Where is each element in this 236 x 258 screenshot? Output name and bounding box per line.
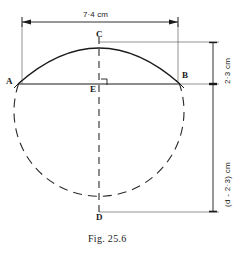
point-label-c: C (96, 30, 103, 39)
geometry-diagram (0, 0, 236, 258)
dim-label-remaining-diameter: (d - 2·3) cm (224, 162, 232, 207)
point-label-d: D (96, 213, 103, 222)
figure-caption: Fig. 25.6 (88, 233, 127, 244)
dim-arrow-right (169, 20, 178, 25)
figure-container: A B C E D 7·4 cm 2·3 cm (d - 2·3) cm Fig… (0, 0, 236, 258)
dim-label-segment-height: 2·3 cm (224, 58, 232, 84)
dim-label-chord-width: 7·4 cm (83, 11, 108, 19)
point-label-b: B (182, 71, 188, 80)
point-label-a: A (6, 77, 13, 86)
dim-arrow-left (22, 20, 31, 25)
point-label-e: E (90, 85, 96, 94)
